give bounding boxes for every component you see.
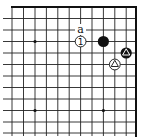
white-stone-move-1[interactable]: 1 (75, 36, 86, 47)
point-label-a: a (77, 23, 84, 36)
black-stone[interactable] (98, 36, 109, 47)
star-point (33, 109, 36, 112)
star-point (102, 109, 105, 112)
move-number: 1 (78, 37, 84, 47)
grid-lines (3, 7, 136, 136)
black-stone-triangle-marked[interactable] (121, 47, 132, 58)
star-point (33, 40, 36, 43)
go-board-diagram: a 1 (0, 0, 142, 138)
white-stone-triangle-marked[interactable] (109, 59, 120, 70)
